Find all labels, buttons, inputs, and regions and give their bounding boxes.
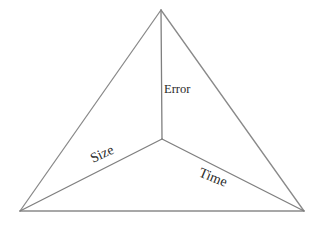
- edge-apex-to-bottom-left: [20, 10, 161, 211]
- edge-apex-to-bottom-right: [161, 10, 304, 211]
- tradeoff-tetrahedron-diagram: Error Size Time: [0, 0, 322, 234]
- axis-error: [161, 10, 162, 139]
- label-time: Time: [197, 165, 230, 190]
- label-error: Error: [164, 82, 191, 96]
- axis-time: [162, 139, 304, 211]
- label-size: Size: [88, 142, 116, 166]
